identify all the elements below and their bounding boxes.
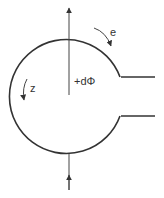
loop-wire — [9, 40, 120, 154]
e-label: e — [110, 26, 116, 38]
loop-diagram: e +dΦ z — [0, 0, 164, 198]
e-direction-arrow — [94, 28, 111, 46]
z-label: z — [30, 82, 36, 94]
flux-label: +dΦ — [74, 75, 96, 87]
z-direction-arrow — [23, 79, 27, 100]
